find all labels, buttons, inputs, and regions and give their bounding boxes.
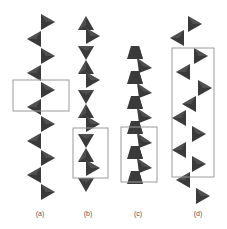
panel-label-a: (a) bbox=[36, 210, 45, 218]
panel-label-c: (c) bbox=[134, 210, 142, 218]
silicate-chain-figure: (a) (b) (c) (d) bbox=[0, 0, 227, 229]
tetrahedron-c bbox=[127, 46, 143, 59]
panel-label-d: (d) bbox=[194, 210, 203, 218]
tetrahedron-c bbox=[127, 96, 143, 109]
tetrahedron-c bbox=[127, 146, 143, 159]
tetrahedron-c bbox=[127, 71, 143, 84]
panel-label-b: (b) bbox=[84, 210, 93, 218]
